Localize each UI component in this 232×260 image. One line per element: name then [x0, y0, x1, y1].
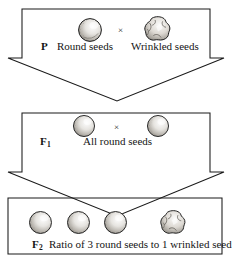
seed-round-f2-1 — [28, 210, 53, 235]
seed-round-f2-3 — [103, 210, 128, 235]
generation-label-f2-letter: F — [32, 238, 39, 250]
phenotype-f2-ratio: Ratio of 3 round seeds to 1 wrinkled see… — [49, 239, 232, 250]
funnel-p-to-f1 — [8, 9, 224, 101]
generation-label-f1-subscript: 1 — [47, 140, 51, 149]
seed-wrinkled-f2-4 — [159, 209, 188, 237]
phenotype-wrinkled-seeds: Wrinkled seeds — [131, 41, 199, 52]
pea-cross-diagram: P Round seeds × Wrinkled seeds F1 × All … — [0, 0, 232, 260]
phenotype-all-round-seeds: All round seeds — [83, 136, 152, 147]
generation-label-f1-letter: F — [40, 135, 47, 147]
phenotype-round-seeds: Round seeds — [57, 41, 113, 52]
cross-symbol-f1: × — [114, 123, 119, 132]
generation-label-p: P — [41, 41, 48, 52]
generation-label-f2-subscript: 2 — [39, 243, 43, 252]
cross-symbol-p: × — [118, 26, 123, 35]
generation-label-f2: F2 — [32, 239, 43, 250]
generation-label-f1: F1 — [40, 136, 51, 147]
seed-round-f2-2 — [66, 210, 91, 235]
